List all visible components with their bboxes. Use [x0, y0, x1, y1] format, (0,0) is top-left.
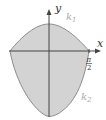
y-axis-arrow-icon [47, 9, 52, 15]
diagram-canvas: y x k1 k2 π 2 [0, 0, 106, 120]
curve-k2-subscript: 2 [86, 96, 92, 104]
curve-k1-subscript: 1 [72, 16, 76, 24]
tick-label-denominator: 2 [87, 64, 91, 72]
y-axis-label: y [54, 2, 62, 15]
x-axis-label: x [97, 37, 104, 50]
tick-label-numerator: π [86, 56, 92, 64]
curve-k2-label: k2 [81, 91, 92, 104]
curve-k1-label: k1 [66, 11, 77, 24]
